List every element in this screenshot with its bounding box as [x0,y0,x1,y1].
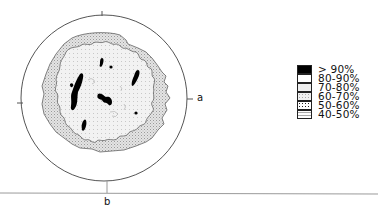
legend-swatch-solid [297,65,312,74]
legend-swatch-sparse-dots [297,74,312,83]
legend-swatch-dashes [297,110,312,119]
baseline [0,193,378,194]
axis-label-b: b [104,196,110,207]
axis-label-a: a [197,92,203,103]
legend-swatch-fine-dots [297,83,312,92]
legend-swatch-light-stipple [297,92,312,101]
legend-label: 40-50% [318,108,360,120]
legend-swatch-dense-dots [297,101,312,110]
